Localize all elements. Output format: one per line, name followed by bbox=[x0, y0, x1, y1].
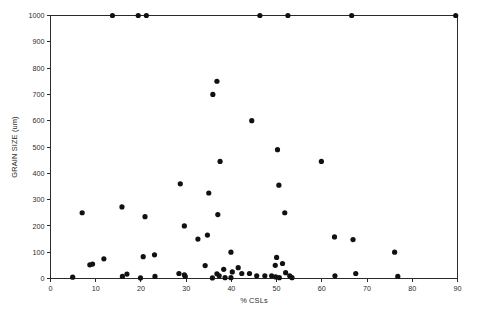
y-tick-label: 200 bbox=[33, 222, 45, 231]
data-point bbox=[176, 271, 181, 276]
plot-canvas: 01002003004005006007008009001000 0102030… bbox=[0, 0, 478, 318]
x-tick-group: 0102030405060708090 bbox=[49, 279, 462, 294]
data-points-group bbox=[70, 13, 458, 281]
data-point bbox=[110, 13, 115, 18]
data-point bbox=[332, 234, 337, 239]
y-tick-label: 300 bbox=[33, 195, 45, 204]
data-point bbox=[217, 159, 222, 164]
data-point bbox=[214, 79, 219, 84]
data-point bbox=[215, 212, 220, 217]
y-tick-label: 900 bbox=[33, 37, 45, 46]
data-point bbox=[247, 271, 252, 276]
data-point bbox=[205, 233, 210, 238]
y-tick-label: 0 bbox=[41, 274, 45, 283]
data-point bbox=[228, 250, 233, 255]
data-point bbox=[182, 223, 187, 228]
y-tick-label: 100 bbox=[33, 248, 45, 257]
data-point bbox=[289, 275, 294, 280]
data-point bbox=[349, 13, 354, 18]
data-point bbox=[70, 275, 75, 280]
data-point bbox=[195, 236, 200, 241]
data-point bbox=[178, 181, 183, 186]
data-point bbox=[275, 147, 280, 152]
x-tick-label: 30 bbox=[182, 284, 190, 293]
data-point bbox=[273, 263, 278, 268]
data-point bbox=[124, 271, 129, 276]
data-point bbox=[239, 271, 244, 276]
y-axis-title: GRAIN SIZE (um) bbox=[10, 116, 19, 177]
data-point bbox=[101, 256, 106, 261]
x-axis-title: % CSLs bbox=[240, 296, 268, 305]
x-tick-label: 80 bbox=[408, 284, 416, 293]
data-point bbox=[203, 263, 208, 268]
scatter-plot-figure: 01002003004005006007008009001000 0102030… bbox=[0, 0, 478, 318]
data-point bbox=[222, 275, 227, 280]
y-tick-label: 400 bbox=[33, 169, 45, 178]
data-point bbox=[274, 255, 279, 260]
x-tick-label: 50 bbox=[273, 284, 281, 293]
data-point bbox=[392, 250, 397, 255]
y-tick-label: 600 bbox=[33, 116, 45, 125]
data-point bbox=[277, 275, 282, 280]
data-point bbox=[210, 275, 215, 280]
data-point bbox=[136, 13, 141, 18]
data-point bbox=[230, 269, 235, 274]
data-point bbox=[332, 273, 337, 278]
data-point bbox=[276, 183, 281, 188]
data-point bbox=[280, 261, 285, 266]
data-point bbox=[80, 210, 85, 215]
y-tick-label: 500 bbox=[33, 143, 45, 152]
data-point bbox=[236, 265, 241, 270]
data-point bbox=[282, 210, 287, 215]
data-point bbox=[183, 274, 188, 279]
x-tick-label: 10 bbox=[92, 284, 100, 293]
x-tick-label: 60 bbox=[318, 284, 326, 293]
data-point bbox=[217, 273, 222, 278]
data-point bbox=[262, 273, 267, 278]
x-tick-label: 0 bbox=[49, 284, 53, 293]
y-tick-label: 700 bbox=[33, 90, 45, 99]
axis-group bbox=[51, 16, 458, 279]
data-point bbox=[319, 159, 324, 164]
data-point bbox=[152, 252, 157, 257]
data-point bbox=[138, 275, 143, 280]
data-point bbox=[353, 271, 358, 276]
data-point bbox=[453, 13, 458, 18]
data-point bbox=[119, 204, 124, 209]
data-point bbox=[257, 13, 262, 18]
data-point bbox=[142, 214, 147, 219]
data-point bbox=[283, 270, 288, 275]
y-tick-label: 800 bbox=[33, 64, 45, 73]
data-point bbox=[144, 13, 149, 18]
data-point bbox=[249, 118, 254, 123]
data-point bbox=[206, 190, 211, 195]
x-tick-label: 20 bbox=[137, 284, 145, 293]
data-point bbox=[395, 274, 400, 279]
data-point bbox=[141, 254, 146, 259]
x-tick-label: 90 bbox=[454, 284, 462, 293]
data-point bbox=[228, 275, 233, 280]
data-point bbox=[90, 261, 95, 266]
data-point bbox=[210, 92, 215, 97]
data-point bbox=[221, 267, 226, 272]
data-point bbox=[152, 274, 157, 279]
data-point bbox=[285, 13, 290, 18]
y-tick-group: 01002003004005006007008009001000 bbox=[29, 11, 51, 283]
x-tick-label: 70 bbox=[363, 284, 371, 293]
y-tick-label: 1000 bbox=[29, 11, 45, 20]
x-tick-label: 40 bbox=[227, 284, 235, 293]
data-point bbox=[120, 274, 125, 279]
data-point bbox=[350, 237, 355, 242]
data-point bbox=[254, 273, 259, 278]
